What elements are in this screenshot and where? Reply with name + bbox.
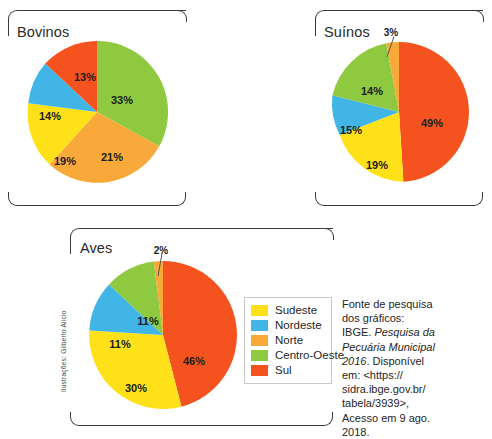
source-line-4: 2016. Disponível <box>342 354 462 368</box>
illustration-credit: Ilustrações: Gilberto Alicio <box>60 311 67 392</box>
panel-bracket-bottom-suinos <box>315 192 483 206</box>
legend-swatch-norte <box>251 335 268 346</box>
source-line-1: Fonte de pesquisa <box>342 297 462 311</box>
legend-swatch-nordeste <box>251 320 268 331</box>
pie-label-sul: 46% <box>183 355 205 367</box>
source-italic-3: 2016 <box>342 355 366 367</box>
pie-callout-line-norte <box>153 253 167 277</box>
chart-title-aves: Aves <box>80 240 112 256</box>
pie-label-nordeste: 11% <box>109 338 130 350</box>
legend-label-sudeste: Sudeste <box>275 305 317 317</box>
legend-item-sul: Sul <box>251 363 323 378</box>
legend-swatch-centro-oeste <box>251 350 268 361</box>
legend-label-norte: Norte <box>275 335 303 347</box>
legend-swatch-sudeste <box>251 305 268 316</box>
pie-label-norte: 21% <box>101 151 123 163</box>
source-italic-2: Pecuária Municipal <box>342 340 462 354</box>
source-note: Fonte de pesquisa dos gráficos: IBGE. Pe… <box>342 297 462 439</box>
pie-label-nordeste: 15% <box>340 124 362 136</box>
source-line-5: em: <https:// <box>342 368 462 382</box>
source-line-3: IBGE. Pesquisa da <box>342 325 462 339</box>
legend-swatch-sul <box>251 365 268 376</box>
chart-title-suinos: Suínos <box>324 24 370 40</box>
pie-label-centro-oeste: 33% <box>111 94 133 106</box>
pie-svg-aves <box>89 261 237 409</box>
legend-item-centro-oeste: Centro-Oeste <box>251 348 323 363</box>
pie-label-norte: 3% <box>384 27 398 38</box>
pie-suinos <box>329 42 469 182</box>
pie-label-nordeste: 14% <box>39 110 61 122</box>
legend-item-nordeste: Nordeste <box>251 318 323 333</box>
legend-label-sul: Sul <box>275 365 292 377</box>
source-ibge: IBGE. <box>342 326 374 338</box>
source-italic-1: Pesquisa da <box>374 326 435 338</box>
source-line-9: 2018. <box>342 425 462 439</box>
legend-item-norte: Norte <box>251 333 323 348</box>
chart-title-bovinos: Bovinos <box>17 24 69 40</box>
pie-label-norte: 2% <box>154 245 168 256</box>
source-line-6: sidra.ibge.gov.br/ <box>342 382 462 396</box>
pie-label-sul: 49% <box>421 117 443 129</box>
pie-label-sudeste: 19% <box>366 159 388 171</box>
legend-label-centro-oeste: Centro-Oeste <box>275 350 344 362</box>
legend-label-nordeste: Nordeste <box>275 320 322 332</box>
source-line-7: tabela/3939>, <box>342 396 462 410</box>
source-disponivel: . Disponível <box>366 355 423 367</box>
chart-legend: Sudeste Nordeste Norte Centro-Oeste Sul <box>244 297 332 384</box>
pie-label-sudeste: 30% <box>125 382 147 394</box>
pie-label-sul: 13% <box>74 71 96 83</box>
pie-svg-suinos <box>329 42 469 182</box>
pie-label-centro-oeste: 14% <box>361 85 383 97</box>
source-line-2: dos gráficos: <box>342 311 462 325</box>
source-line-8: Acesso em 9 ago. <box>342 411 462 425</box>
pie-callout-line-norte <box>383 36 399 58</box>
panel-bracket-bottom-aves <box>70 412 333 426</box>
pie-label-sudeste: 19% <box>54 155 76 167</box>
pie-slice-sul <box>399 42 469 182</box>
pie-aves <box>89 261 237 409</box>
legend-item-sudeste: Sudeste <box>251 303 323 318</box>
panel-bracket-bottom-bovinos <box>8 192 186 206</box>
chart-panel-bovinos: Bovinos 33% 21% 19% 14% 13% <box>8 10 186 206</box>
chart-panel-suinos: Suínos 49% 19% 15% 14% 3% <box>315 10 483 206</box>
pie-label-centro-oeste: 11% <box>137 315 158 327</box>
